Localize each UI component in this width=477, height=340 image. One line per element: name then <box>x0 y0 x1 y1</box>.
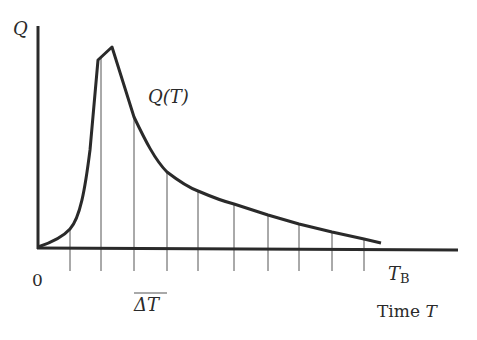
x-axis-var: T <box>425 301 436 321</box>
delta-t-label: ΔT <box>134 296 159 314</box>
interval-lines <box>70 58 364 271</box>
diagram-canvas <box>0 0 477 340</box>
x-axis-word: Time <box>377 301 425 321</box>
x-axis-label: Time T <box>377 303 437 320</box>
curve-label: Q(T) <box>148 88 189 106</box>
y-axis-label: Q <box>13 20 28 38</box>
origin-label: 0 <box>32 272 43 289</box>
tb-main: T <box>388 263 400 284</box>
tb-label: TB <box>388 265 410 285</box>
tb-sub: B <box>400 271 410 286</box>
q-curve <box>38 47 381 247</box>
x-axis <box>37 248 458 250</box>
